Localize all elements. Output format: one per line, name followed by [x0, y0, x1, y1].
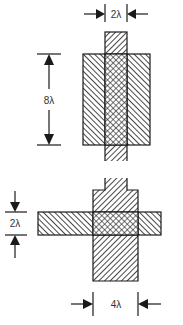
arrow-left-icon: [138, 299, 148, 309]
arrow-up-icon: [10, 235, 20, 245]
arrow-down-icon: [44, 134, 54, 145]
layout-rules-diagram: 2λ 8λ: [0, 0, 183, 325]
arrow-down-icon: [10, 202, 20, 212]
top-height-label: 8λ: [44, 95, 55, 106]
bottom-width-label: 4λ: [111, 299, 122, 310]
top-overlap-crosshatch: [105, 54, 127, 145]
arrow-right-icon: [83, 299, 93, 309]
top-height-dimension: 8λ: [37, 54, 61, 145]
bottom-height-label: 2λ: [10, 218, 21, 229]
top-width-dimension: 2λ: [84, 4, 148, 22]
bottom-overlap-region: [93, 212, 138, 235]
top-width-label: 2λ: [111, 9, 122, 20]
arrow-left-icon: [127, 9, 136, 19]
bottom-figure: 2λ 4λ: [5, 178, 161, 316]
top-figure: 2λ 8λ: [37, 4, 150, 162]
arrow-up-icon: [44, 54, 54, 65]
bottom-height-dimension: 2λ: [5, 191, 27, 258]
arrow-right-icon: [96, 9, 105, 19]
bottom-width-dimension: 4λ: [71, 292, 161, 316]
